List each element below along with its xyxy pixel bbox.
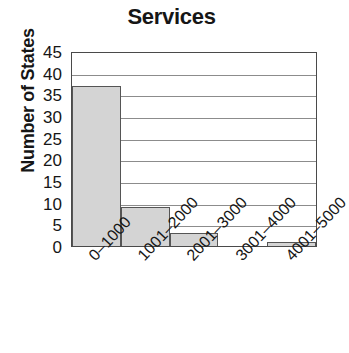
y-tick-label: 45 xyxy=(43,44,62,61)
y-tick-label: 30 xyxy=(43,109,62,126)
y-tick-label: 20 xyxy=(43,152,62,169)
bar-slot xyxy=(72,53,121,246)
chart-title: Services xyxy=(0,4,343,30)
y-tick-label: 40 xyxy=(43,65,62,82)
y-tick-label: 0 xyxy=(53,239,62,256)
y-tick-label: 35 xyxy=(43,87,62,104)
y-tick-label: 5 xyxy=(53,217,62,234)
x-axis-tick-labels: 0–10001001–20002001–30003001–40004001–50… xyxy=(71,249,317,353)
bar-slot xyxy=(121,53,170,246)
y-tick-label: 25 xyxy=(43,130,62,147)
y-tick-label: 10 xyxy=(43,195,62,212)
y-tick-label: 15 xyxy=(43,174,62,191)
y-axis-tick-labels: 051015202530354045 xyxy=(0,52,66,247)
